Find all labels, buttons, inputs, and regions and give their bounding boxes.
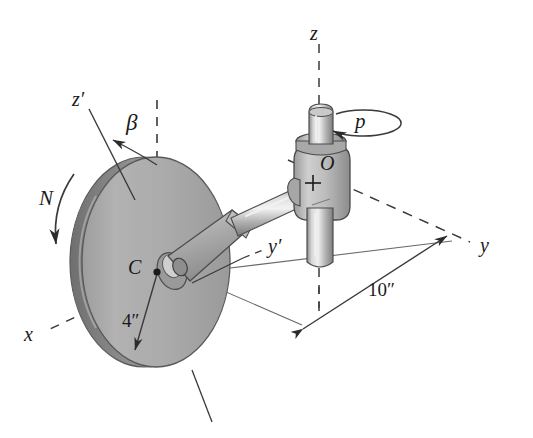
lower-shaft-body: [307, 208, 333, 267]
label-spin-rate: N: [38, 186, 54, 210]
label-origin: O: [320, 152, 334, 174]
dimension-disk-radius: 4″: [122, 310, 139, 331]
dimension-arm-length: 10″: [368, 279, 395, 300]
upper-shaft-top-face: [309, 108, 333, 117]
label-z: z: [309, 22, 318, 44]
label-y: y: [478, 234, 489, 257]
label-x: x: [23, 323, 33, 345]
label-y-prime: y′: [266, 235, 282, 258]
vertical-shaft-lower: [307, 208, 333, 267]
vertical-shaft-upper: [309, 104, 333, 144]
label-center: C: [128, 256, 142, 278]
label-z-prime: z′: [71, 88, 85, 110]
center-dot: [153, 268, 160, 275]
label-beta: β: [125, 110, 138, 135]
gyroscope-diagram: z′ z β p N O C y′ y x 4″ 10″: [0, 0, 533, 438]
figure-canvas: z′ z β p N O C y′ y x 4″ 10″: [0, 0, 533, 438]
label-precession-rate: p: [353, 109, 366, 133]
